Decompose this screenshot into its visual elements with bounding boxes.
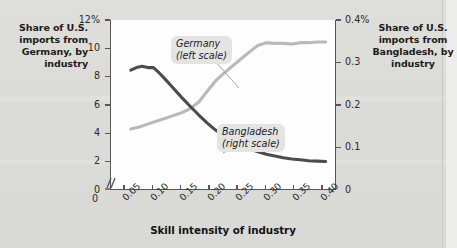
- left-tick-mark: [105, 76, 110, 77]
- bangladesh-annotation-line2: (right scale): [222, 138, 280, 150]
- x-axis-title: Skill intensity of industry: [110, 224, 336, 236]
- right-tick-mark: [336, 19, 341, 20]
- germany-annotation-line2: (left scale): [176, 50, 227, 62]
- right-tick-label: 0.2: [345, 99, 377, 110]
- bangladesh-annotation: Bangladesh (right scale): [217, 124, 285, 152]
- right-axis-caption: Share of U.S. imports from Bangladesh, b…: [372, 22, 454, 70]
- left-tick-mark: [105, 133, 110, 134]
- right-tick-label: 0: [345, 184, 377, 195]
- left-tick-label: 2: [70, 155, 100, 166]
- right-tick-label: 0.4%: [345, 14, 377, 25]
- right-tick-mark: [336, 104, 341, 105]
- left-tick-label: 12%: [70, 14, 100, 25]
- left-tick-label: 4: [70, 127, 100, 138]
- left-tick-mark: [105, 104, 110, 105]
- figure-canvas: Share of U.S. imports from Germany, by i…: [0, 0, 457, 248]
- left-tick-mark: [105, 19, 110, 20]
- germany-annotation: Germany (left scale): [171, 36, 232, 64]
- bangladesh-annotation-line1: Bangladesh: [222, 126, 280, 138]
- axis-break-icon: [104, 176, 124, 192]
- left-tick-label: 10: [70, 42, 100, 53]
- plot-area: Germany (left scale) Bangladesh (right s…: [110, 20, 336, 190]
- x-origin-label: 0: [92, 193, 98, 204]
- germany-annotation-line1: Germany: [176, 38, 227, 50]
- left-tick-label: 6: [70, 99, 100, 110]
- left-tick-label: 8: [70, 70, 100, 81]
- left-tick-mark: [105, 48, 110, 49]
- right-tick-label: 0.3: [345, 56, 377, 67]
- right-tick-mark: [336, 62, 341, 63]
- left-tick-mark: [105, 161, 110, 162]
- right-tick-label: 0.1: [345, 141, 377, 152]
- right-tick-mark: [336, 147, 341, 148]
